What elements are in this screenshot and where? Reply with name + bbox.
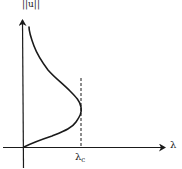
y-axis (23, 20, 24, 168)
critical-value-label: λc (75, 152, 85, 164)
solution-branch-curve (24, 27, 81, 147)
bifurcation-diagram (0, 0, 182, 169)
y-axis-label: ||u|| (22, 0, 40, 9)
x-axis-label: λ (170, 140, 176, 150)
critical-value-subscript: c (81, 156, 85, 164)
